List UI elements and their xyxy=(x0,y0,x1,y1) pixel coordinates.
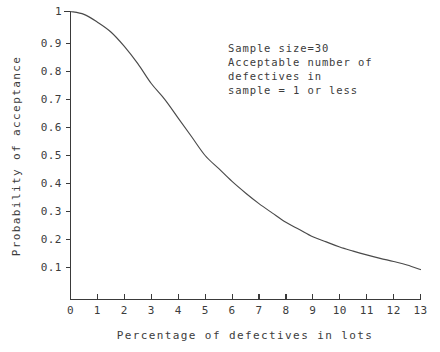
x-tick-labels: 0 1 2 3 4 5 6 7 8 9 10 11 12 13 xyxy=(67,304,428,317)
y-tick-label: 0.3 xyxy=(41,205,62,218)
axis-frame xyxy=(71,12,421,300)
annotation-line-4: sample = 1 or less xyxy=(228,84,358,96)
annotation-line-2: Acceptable number of xyxy=(228,56,372,68)
x-tick-label: 13 xyxy=(413,304,427,317)
y-tick-marks xyxy=(64,12,71,268)
y-tick-label: 1 xyxy=(55,5,62,18)
y-tick-label: 0.1 xyxy=(41,261,62,274)
annotation-line-1: Sample size=30 xyxy=(228,42,329,54)
x-axis-title: Percentage of defectives in lots xyxy=(117,329,374,342)
annotation-line-3: defectives in xyxy=(228,70,322,82)
x-tick-label: 7 xyxy=(255,304,262,317)
x-tick-label: 12 xyxy=(387,304,401,317)
x-tick-label: 11 xyxy=(360,304,374,317)
y-tick-label: 0.9 xyxy=(41,37,62,50)
x-tick-label: 0 xyxy=(67,304,74,317)
y-tick-label: 0.8 xyxy=(41,65,62,78)
y-tick-label: 0.2 xyxy=(41,233,62,246)
y-tick-label: 0.7 xyxy=(41,93,62,106)
y-tick-labels: 1 0.9 0.8 0.7 0.6 0.5 0.4 0.3 0.2 0.1 xyxy=(41,5,62,274)
oc-curve-chart: 1 0.9 0.8 0.7 0.6 0.5 0.4 0.3 0.2 0.1 xyxy=(0,0,440,352)
x-tick-label: 4 xyxy=(175,304,182,317)
y-tick-label: 0.6 xyxy=(41,121,62,134)
x-tick-label: 10 xyxy=(333,304,347,317)
x-tick-label: 9 xyxy=(309,304,316,317)
x-tick-label: 8 xyxy=(282,304,289,317)
y-tick-label: 0.4 xyxy=(41,177,62,190)
y-tick-label: 0.5 xyxy=(41,149,62,162)
x-tick-label: 1 xyxy=(94,304,101,317)
x-tick-label: 3 xyxy=(148,304,155,317)
x-tick-marks xyxy=(71,294,421,300)
y-axis-title: Probability of acceptance xyxy=(10,56,23,257)
chart-svg: 1 0.9 0.8 0.7 0.6 0.5 0.4 0.3 0.2 0.1 xyxy=(0,0,440,352)
x-tick-label: 6 xyxy=(229,304,236,317)
x-tick-label: 5 xyxy=(202,304,209,317)
annotation-block: Sample size=30 Acceptable number of defe… xyxy=(228,42,372,96)
x-tick-label: 2 xyxy=(121,304,128,317)
